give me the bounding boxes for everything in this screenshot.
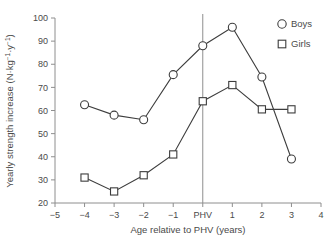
x-tick-label: PHV	[194, 210, 213, 220]
x-tick-label: 4	[318, 210, 323, 220]
y-tick-label: 30	[38, 175, 48, 185]
x-tick-label: 1	[230, 210, 235, 220]
data-point-girls	[140, 172, 147, 179]
data-point-boys	[140, 116, 148, 124]
x-tick-label: −4	[79, 210, 89, 220]
x-axis-ticks	[55, 203, 321, 207]
data-point-boys	[169, 71, 177, 79]
data-point-boys	[81, 101, 89, 109]
data-point-girls	[81, 174, 88, 181]
data-point-boys	[199, 42, 207, 50]
y-tick-label: 20	[38, 198, 48, 208]
legend-marker-girls	[278, 40, 286, 48]
legend-label-boys: Boys	[291, 18, 312, 29]
series-line-girls	[85, 85, 292, 191]
x-axis-title: Age relative to PHV (years)	[130, 224, 245, 235]
legend-label-girls: Girls	[291, 38, 311, 49]
y-tick-label: 90	[38, 36, 48, 46]
y-tick-label: 80	[38, 59, 48, 69]
y-tick-label: 40	[38, 152, 48, 162]
data-point-girls	[111, 188, 118, 195]
chart-container: 2030405060708090100 −5−4−3−2−1PHV1234 Ye…	[0, 0, 329, 244]
y-axis-tick-labels: 2030405060708090100	[33, 13, 48, 208]
data-point-boys	[110, 111, 118, 119]
x-tick-label: 3	[289, 210, 294, 220]
series-line-boys	[85, 27, 292, 159]
x-tick-label: −3	[109, 210, 119, 220]
data-point-girls	[170, 151, 177, 158]
data-point-boys	[228, 23, 236, 31]
y-tick-label: 100	[33, 13, 48, 23]
data-point-boys	[287, 155, 295, 163]
x-tick-label: −1	[168, 210, 178, 220]
x-tick-label: 2	[259, 210, 264, 220]
chart-legend: BoysGirls	[278, 18, 313, 49]
line-chart: 2030405060708090100 −5−4−3−2−1PHV1234 Ye…	[0, 0, 329, 244]
x-axis-tick-labels: −5−4−3−2−1PHV1234	[50, 210, 324, 220]
y-tick-label: 70	[38, 83, 48, 93]
y-axis-ticks	[51, 18, 55, 203]
data-point-girls	[258, 106, 265, 113]
data-point-girls	[229, 81, 236, 88]
y-axis-title: Yearly strength increase (N·kg−1·y−1)	[4, 34, 15, 187]
legend-marker-boys	[278, 20, 286, 28]
y-tick-label: 50	[38, 129, 48, 139]
series-layer	[81, 23, 296, 195]
data-point-girls	[288, 106, 295, 113]
data-point-boys	[258, 73, 266, 81]
y-tick-label: 60	[38, 106, 48, 116]
x-tick-label: −2	[139, 210, 149, 220]
x-tick-label: −5	[50, 210, 60, 220]
data-point-girls	[199, 98, 206, 105]
